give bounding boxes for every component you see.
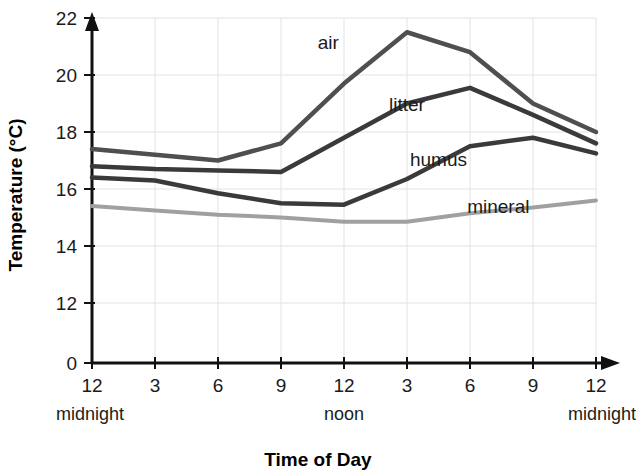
x-axis-daypart-labels: midnightnoonmidnight xyxy=(56,404,636,424)
x-axis-daypart-label: midnight xyxy=(568,404,636,424)
series-label-litter: litter xyxy=(389,94,426,115)
y-axis-tick-label: 12 xyxy=(56,293,77,314)
x-axis-tick-label: 3 xyxy=(150,375,161,396)
x-axis-title: Time of Day xyxy=(264,449,372,470)
axis-lines xyxy=(85,12,620,370)
x-axis-tick-label: 9 xyxy=(276,375,287,396)
x-axis-tick-label: 12 xyxy=(585,375,606,396)
series-label-mineral: mineral xyxy=(467,196,529,217)
x-axis-tick-label: 9 xyxy=(528,375,539,396)
chart-canvas: 0121416182022 123691236912 midnightnoonm… xyxy=(0,0,636,472)
x-axis-daypart-label: noon xyxy=(324,404,364,424)
y-axis-tick-label: 14 xyxy=(56,236,78,257)
x-axis-tick-label: 12 xyxy=(81,375,102,396)
x-axis-tick-label: 6 xyxy=(213,375,224,396)
x-axis-tick-label: 3 xyxy=(402,375,413,396)
temperature-time-of-day-chart: 0121416182022 123691236912 midnightnoonm… xyxy=(0,0,636,472)
y-axis-tick-label: 20 xyxy=(56,65,77,86)
y-axis-title: Temperature (°C) xyxy=(5,119,26,272)
y-axis-arrowhead xyxy=(85,12,99,31)
x-axis-daypart-label: midnight xyxy=(56,404,124,424)
gridlines xyxy=(92,18,596,363)
x-axis-tick-label: 6 xyxy=(465,375,476,396)
series-label-humus: humus xyxy=(410,149,467,170)
series-label-air: air xyxy=(318,32,340,53)
x-axis-arrowhead xyxy=(601,356,620,370)
y-axis-tick-label: 16 xyxy=(56,179,77,200)
x-axis-tick-label: 12 xyxy=(333,375,354,396)
y-axis-tick-labels: 0121416182022 xyxy=(56,8,78,374)
y-axis-tick-label: 22 xyxy=(56,8,77,29)
y-axis-tick-label: 18 xyxy=(56,122,77,143)
x-axis-tick-labels: 123691236912 xyxy=(81,375,606,396)
y-axis-tick-label: 0 xyxy=(66,353,77,374)
